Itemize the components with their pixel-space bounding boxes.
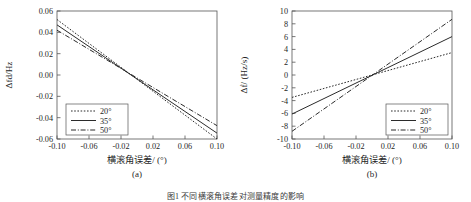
y-axis-tick-label: 8 <box>284 20 288 29</box>
y-axis-tick-label: -2 <box>281 84 288 93</box>
y-axis-tick-label: -10 <box>277 135 288 144</box>
chart-b-svg: -0.10-0.06-0.020.020.060.10-10-8-6-4-202… <box>235 0 471 202</box>
figure-caption: 图1 不同横滚角误差对测量精度的影响 <box>0 190 471 201</box>
chart-panel-b: -0.10-0.06-0.020.020.060.10-10-8-6-4-202… <box>235 0 470 202</box>
y-axis-tick-label: 0 <box>284 71 288 80</box>
y-axis-tick-label: 0.02 <box>39 50 53 59</box>
chart-a-svg: -0.10-0.06-0.020.020.060.10-0.06-0.04-0.… <box>0 0 235 202</box>
legend-label-20deg: 20° <box>420 107 431 116</box>
subplot-label: (b) <box>367 169 378 179</box>
legend-label-35deg: 35° <box>100 117 111 126</box>
legend-label-50deg: 50° <box>100 126 111 135</box>
y-axis-tick-label: -8 <box>281 122 288 131</box>
x-axis-tick-label: 0.02 <box>381 142 395 151</box>
x-axis-tick-label: 0.02 <box>146 142 160 151</box>
figure-container: -0.10-0.06-0.020.020.060.10-0.06-0.04-0.… <box>0 0 471 202</box>
x-axis-tick-label: -0.02 <box>347 142 364 151</box>
y-axis-tick-label: 4 <box>284 45 288 54</box>
y-axis-tick-label: -0.02 <box>36 92 53 101</box>
y-axis-tick-label: 0.06 <box>39 7 53 16</box>
y-axis-tick-label: -0.06 <box>36 135 53 144</box>
subplot-label: (a) <box>132 169 142 179</box>
x-axis-title: 横滚角误差/ (°) <box>107 154 167 165</box>
x-axis-tick-label: -0.06 <box>80 142 97 151</box>
y-axis-tick-label: -0.04 <box>36 114 53 123</box>
y-axis-tick-label: 0.04 <box>39 28 53 37</box>
chart-panel-a: -0.10-0.06-0.020.020.060.10-0.06-0.04-0.… <box>0 0 235 202</box>
legend-label-35deg: 35° <box>420 117 431 126</box>
y-axis-tick-label: -6 <box>281 109 288 118</box>
y-axis-tick-label: -4 <box>281 97 288 106</box>
y-axis-tick-label: 6 <box>284 33 288 42</box>
y-axis-tick-label: 0.00 <box>39 71 53 80</box>
y-axis-title: Δḟ/ (Hz/s) <box>239 57 249 94</box>
x-axis-tick-label: 0.06 <box>413 142 427 151</box>
x-axis-tick-label: -0.02 <box>112 142 129 151</box>
y-axis-title: Δfd/Hz <box>4 62 14 89</box>
x-axis-tick-label: -0.06 <box>315 142 332 151</box>
x-axis-title: 横滚角误差/ (°) <box>342 154 402 165</box>
legend-label-20deg: 20° <box>100 107 111 116</box>
y-axis-tick-label: 2 <box>284 58 288 67</box>
x-axis-tick-label: 0.10 <box>210 142 224 151</box>
x-axis-tick-label: 0.10 <box>445 142 459 151</box>
y-axis-tick-label: 10 <box>280 7 288 16</box>
legend-label-50deg: 50° <box>420 126 431 135</box>
x-axis-tick-label: 0.06 <box>178 142 192 151</box>
